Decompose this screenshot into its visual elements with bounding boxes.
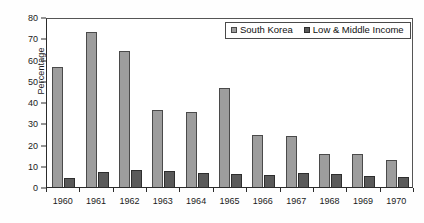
bar-1966-series-0	[252, 135, 263, 187]
y-tick-label-20: 20	[0, 141, 38, 151]
bar-1964-series-0	[186, 112, 197, 187]
x-tick-mark-0	[46, 188, 47, 192]
bar-1969-series-1	[364, 176, 375, 187]
bar-1964-series-1	[198, 173, 209, 187]
x-tick-mark-11	[413, 188, 414, 192]
x-tick-label-1970: 1970	[376, 196, 416, 206]
legend-label-0: South Korea	[240, 25, 293, 35]
bar-1970-series-1	[398, 177, 409, 187]
bar-1968-series-0	[319, 154, 330, 187]
bar-1963-series-0	[152, 110, 163, 187]
bar-1965-series-1	[231, 174, 242, 187]
y-tick-label-80: 80	[0, 13, 38, 23]
x-tick-mark-5	[213, 188, 214, 192]
bar-1961-series-1	[98, 172, 109, 187]
bar-1967-series-1	[298, 173, 309, 187]
y-axis-ticks: 01020304050607080	[0, 0, 46, 223]
bar-chart: Percentage 01020304050607080 19601961196…	[0, 0, 424, 223]
bar-1968-series-1	[331, 174, 342, 187]
legend-swatch-icon-0	[231, 27, 237, 33]
bar-1969-series-0	[352, 154, 363, 187]
bar-1962-series-1	[131, 170, 142, 187]
y-tick-label-40: 40	[0, 98, 38, 108]
bar-1962-series-0	[119, 51, 130, 187]
x-tick-mark-7	[280, 188, 281, 192]
x-tick-mark-1	[79, 188, 80, 192]
x-tick-mark-6	[246, 188, 247, 192]
bar-1966-series-1	[264, 175, 275, 187]
bar-1960-series-1	[64, 178, 75, 187]
x-tick-mark-8	[313, 188, 314, 192]
y-tick-label-0: 0	[0, 183, 38, 193]
legend-entry-0: South Korea	[231, 25, 293, 35]
x-tick-mark-3	[146, 188, 147, 192]
x-tick-mark-2	[113, 188, 114, 192]
legend-label-1: Low & Middle Income	[313, 25, 404, 35]
y-tick-label-30: 30	[0, 119, 38, 129]
x-tick-mark-9	[346, 188, 347, 192]
chart-legend: South KoreaLow & Middle Income	[225, 22, 411, 39]
bar-1970-series-0	[386, 160, 397, 187]
bar-1960-series-0	[52, 67, 63, 187]
y-tick-label-60: 60	[0, 56, 38, 66]
bar-1967-series-0	[286, 136, 297, 187]
y-tick-label-70: 70	[0, 34, 38, 44]
x-tick-mark-10	[380, 188, 381, 192]
plot-area	[46, 18, 413, 188]
legend-swatch-icon-1	[304, 27, 310, 33]
bar-1961-series-0	[86, 32, 97, 187]
y-tick-label-50: 50	[0, 77, 38, 87]
x-tick-mark-4	[179, 188, 180, 192]
bar-1963-series-1	[164, 171, 175, 187]
bar-1965-series-0	[219, 88, 230, 187]
y-tick-label-10: 10	[0, 162, 38, 172]
legend-entry-1: Low & Middle Income	[304, 25, 404, 35]
